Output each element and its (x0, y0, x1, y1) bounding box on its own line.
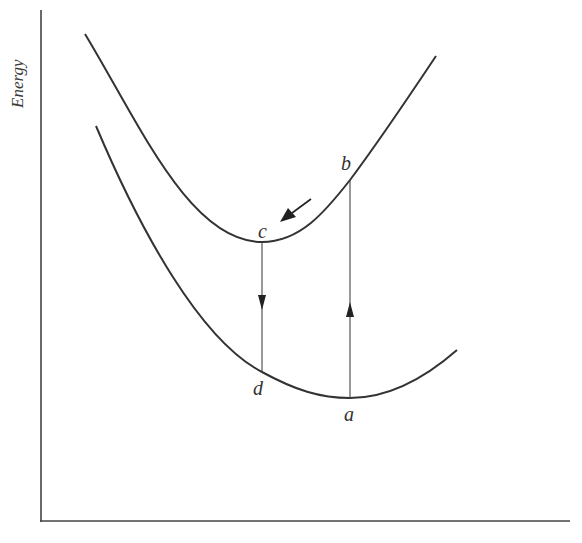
lower-potential-curve (96, 126, 457, 398)
point-label-c: c (258, 220, 267, 243)
point-label-d: d (253, 377, 263, 400)
up-arrow-icon (346, 302, 354, 317)
y-axis-label: Energy (8, 60, 28, 108)
relaxation-arrow-shaft (292, 199, 311, 213)
energy-diagram (0, 0, 582, 543)
point-label-b: b (341, 152, 351, 175)
down-arrow-icon (258, 295, 266, 310)
point-label-a: a (344, 403, 354, 426)
upper-potential-curve (85, 34, 436, 242)
y-axis-label-wrap: Energy (8, 108, 56, 128)
left-down-arrow-icon (280, 208, 296, 222)
